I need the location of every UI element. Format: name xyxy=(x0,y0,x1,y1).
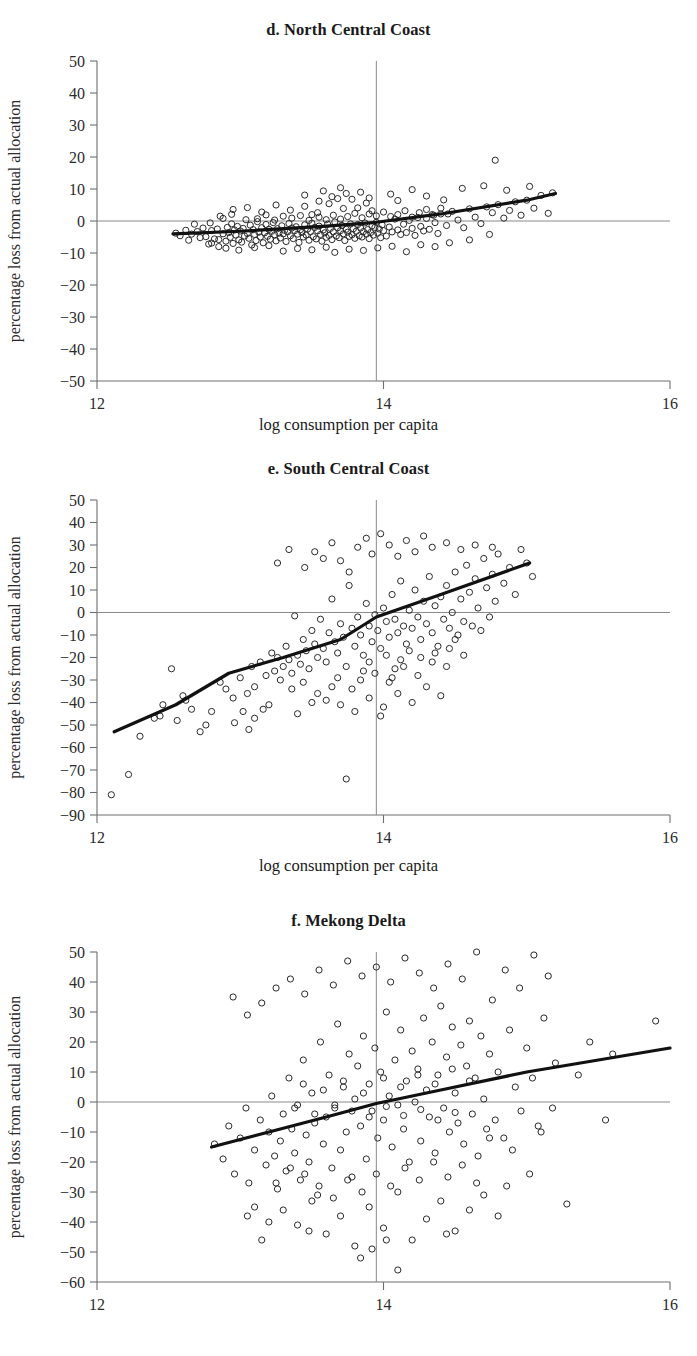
data-point xyxy=(587,1038,593,1044)
data-point xyxy=(461,224,467,230)
data-point xyxy=(309,1197,315,1203)
y-tick-label: 50 xyxy=(69,491,85,508)
data-point xyxy=(247,222,253,228)
data-point xyxy=(352,1095,358,1101)
data-point xyxy=(315,1191,321,1197)
data-point xyxy=(378,712,384,718)
data-point xyxy=(343,1128,349,1134)
data-point xyxy=(432,1080,438,1086)
data-point xyxy=(274,559,280,565)
data-point xyxy=(423,206,429,212)
data-point xyxy=(538,1128,544,1134)
y-tick-label: −40 xyxy=(60,694,85,711)
data-point xyxy=(389,243,395,249)
data-point xyxy=(386,634,392,640)
data-point xyxy=(403,248,409,254)
data-point xyxy=(501,580,507,586)
data-point xyxy=(452,1227,458,1233)
data-point xyxy=(230,694,236,700)
data-point xyxy=(277,676,283,682)
data-point xyxy=(320,1086,326,1092)
data-point xyxy=(230,993,236,999)
data-point xyxy=(329,683,335,689)
data-point xyxy=(340,1083,346,1089)
data-point xyxy=(243,216,249,222)
data-point xyxy=(366,1080,372,1086)
data-point xyxy=(360,652,366,658)
data-point xyxy=(380,1074,386,1080)
data-point xyxy=(458,1041,464,1047)
data-point xyxy=(306,237,312,243)
data-point xyxy=(246,1179,252,1185)
data-point xyxy=(418,241,424,247)
data-point xyxy=(431,1158,437,1164)
data-point xyxy=(418,1137,424,1143)
data-point xyxy=(395,211,401,217)
data-point xyxy=(359,1188,365,1194)
data-point xyxy=(406,647,412,653)
data-point xyxy=(472,1074,478,1080)
data-point xyxy=(300,636,306,642)
data-point xyxy=(345,957,351,963)
data-point xyxy=(463,1062,469,1068)
data-point xyxy=(380,208,386,214)
data-point xyxy=(389,591,395,597)
panel-d-svg: 50403020100−10−20−30−40−50121416percenta… xyxy=(0,39,697,411)
data-point xyxy=(357,631,363,637)
data-point xyxy=(357,1254,363,1260)
data-point xyxy=(486,1134,492,1140)
data-point xyxy=(415,1071,421,1077)
data-point xyxy=(346,568,352,574)
y-tick-label: −20 xyxy=(60,1153,85,1170)
y-tick-label: 10 xyxy=(69,581,85,598)
data-point xyxy=(263,672,269,678)
panel-d-plot: 50403020100−10−20−30−40−50121416percenta… xyxy=(0,39,697,411)
data-point xyxy=(395,1101,401,1107)
data-point xyxy=(421,1014,427,1020)
data-point xyxy=(400,622,406,628)
data-point xyxy=(251,1203,257,1209)
data-point xyxy=(366,1203,372,1209)
data-point xyxy=(388,978,394,984)
data-point xyxy=(306,665,312,671)
data-point xyxy=(343,663,349,669)
data-point xyxy=(481,1095,487,1101)
panel-f-plot: 50403020100−10−20−30−40−50−60121416perce… xyxy=(0,930,697,1320)
data-point xyxy=(332,249,338,255)
data-point xyxy=(253,237,259,243)
y-tick-label: 0 xyxy=(77,212,85,229)
panel-d-title: d. North Central Coast xyxy=(0,0,697,39)
data-point xyxy=(369,550,375,556)
data-point xyxy=(259,1236,265,1242)
data-point xyxy=(244,204,250,210)
y-tick-label: 50 xyxy=(69,943,85,960)
data-point xyxy=(366,694,372,700)
data-point xyxy=(386,541,392,547)
data-point xyxy=(461,618,467,624)
y-tick-label: −30 xyxy=(60,308,85,325)
data-point xyxy=(545,210,551,216)
data-point xyxy=(340,205,346,211)
data-point xyxy=(306,1158,312,1164)
data-point xyxy=(443,539,449,545)
data-point xyxy=(418,1106,424,1112)
data-point xyxy=(244,690,250,696)
y-tick-label: 40 xyxy=(69,514,85,531)
data-point xyxy=(257,1116,263,1122)
data-point xyxy=(415,672,421,678)
data-point xyxy=(475,604,481,610)
panel-e-svg: 50403020100−10−20−30−40−50−60−70−80−9012… xyxy=(0,478,697,853)
data-point xyxy=(541,1014,547,1020)
data-point xyxy=(409,1236,415,1242)
data-point xyxy=(312,1110,318,1116)
y-tick-label: 50 xyxy=(69,52,85,69)
data-point xyxy=(441,1104,447,1110)
data-point xyxy=(286,546,292,552)
data-point xyxy=(259,999,265,1005)
data-point xyxy=(345,1176,351,1182)
data-point xyxy=(357,676,363,682)
data-point xyxy=(509,1146,515,1152)
data-point xyxy=(495,550,501,556)
data-point xyxy=(466,589,472,595)
data-point xyxy=(443,582,449,588)
